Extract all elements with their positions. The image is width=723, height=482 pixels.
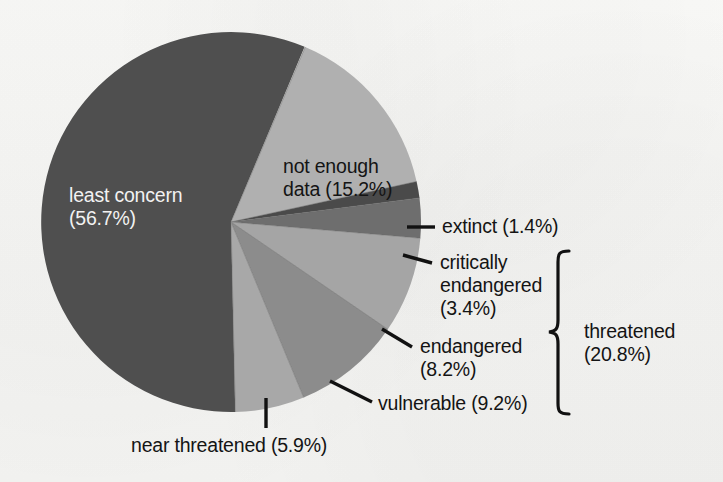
label-threatened-group: threatened (20.8%) bbox=[584, 320, 675, 366]
label-extinct: extinct (1.4%) bbox=[442, 215, 558, 238]
threatened-bracket-icon bbox=[549, 251, 569, 414]
leader-line-endangered bbox=[382, 329, 412, 347]
pie-chart-canvas bbox=[0, 0, 723, 482]
label-not-enough-data: not enough data (15.2%) bbox=[283, 155, 392, 201]
pie-chart-figure: least concern (56.7%) not enough data (1… bbox=[0, 0, 723, 482]
label-vulnerable: vulnerable (9.2%) bbox=[378, 392, 527, 415]
label-least-concern: least concern (56.7%) bbox=[69, 184, 182, 230]
label-near-threatened: near threatened (5.9%) bbox=[131, 434, 327, 457]
label-critically-endangered: critically endangered (3.4%) bbox=[440, 251, 542, 320]
leader-line-vulnerable bbox=[330, 381, 372, 402]
label-endangered: endangered (8.2%) bbox=[420, 335, 522, 381]
